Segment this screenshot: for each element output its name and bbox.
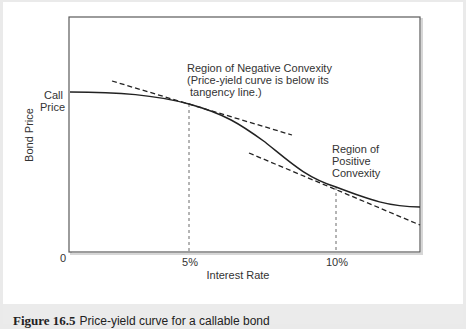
figure-caption: Figure 16.5Price-yield curve for a calla… — [13, 313, 270, 329]
annotation-positive-line2: Positive — [332, 155, 371, 167]
plot-frame — [69, 17, 420, 252]
x-tick-10pct: 10% — [326, 256, 348, 268]
x-axis-label: Interest Rate — [207, 269, 270, 281]
y-axis-label: Bond Price — [23, 108, 35, 162]
origin-label: 0 — [60, 252, 66, 264]
annotation-positive-line3: Convexity — [332, 167, 381, 179]
y-tick-price: Price — [40, 101, 65, 113]
annotation-negative-line1: Region of Negative Convexity — [187, 62, 332, 74]
x-tick-5pct: 5% — [182, 256, 198, 268]
caption-text: Price-yield curve for a callable bond — [80, 314, 270, 328]
annotation-negative-line2: (Price-yield curve is below its — [187, 74, 329, 86]
y-tick-call: Call — [44, 89, 63, 101]
annotation-positive-line1: Region of — [332, 143, 380, 155]
figure-number: Figure 16.5 — [13, 313, 76, 328]
annotation-negative-line3: tangency line.) — [187, 86, 262, 98]
